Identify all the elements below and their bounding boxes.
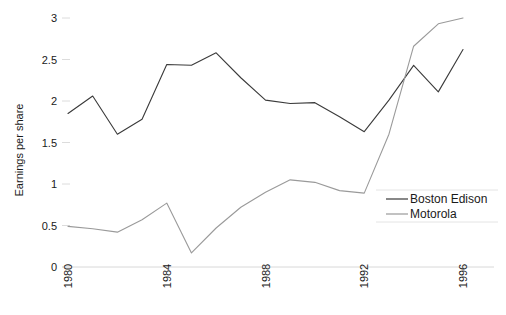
y-tick-label: 2.5 [42, 54, 57, 66]
y-tick-labels: 00.511.522.53 [42, 12, 57, 273]
x-tick-label: 1980 [62, 264, 74, 288]
x-tick-label: 1984 [161, 264, 173, 288]
y-tick-label: 2 [51, 95, 57, 107]
series-line-motorola [68, 18, 463, 253]
chart-canvas: 00.511.522.53 Earnings per share 1980198… [0, 0, 506, 315]
legend-label-boston-edison: Boston Edison [410, 192, 487, 206]
y-tick-label: 3 [51, 12, 57, 24]
y-tick-label: 1.5 [42, 137, 57, 149]
y-tick-label: 0 [51, 261, 57, 273]
x-tick-label: 1992 [358, 264, 370, 288]
series-line-boston-edison [68, 50, 463, 135]
line-chart: 00.511.522.53 Earnings per share 1980198… [0, 0, 506, 315]
legend-label-motorola: Motorola [410, 207, 457, 221]
y-axis-title: Earnings per share [13, 104, 25, 197]
y-tick-label: 1 [51, 178, 57, 190]
y-tick-marks [62, 18, 70, 267]
x-tick-label: 1996 [457, 264, 469, 288]
x-tick-label: 1988 [260, 264, 272, 288]
legend: Boston Edison Motorola [376, 190, 498, 222]
y-tick-label: 0.5 [42, 220, 57, 232]
